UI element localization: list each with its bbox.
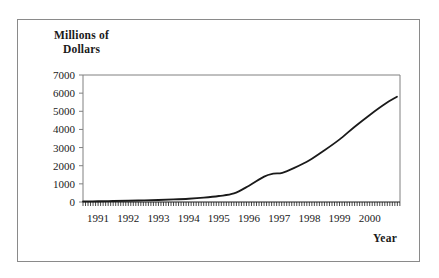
- data-series-line: [83, 97, 397, 202]
- svg-text:1992: 1992: [117, 212, 139, 224]
- svg-text:1996: 1996: [238, 212, 260, 224]
- svg-text:1000: 1000: [53, 178, 76, 190]
- svg-text:2000: 2000: [53, 160, 76, 172]
- y-axis-tick-marks: [79, 75, 83, 202]
- line-chart-plot: 01000200030004000500060007000 1991199219…: [18, 20, 421, 263]
- plot-area-border: [83, 75, 400, 202]
- chart-figure-frame: Millions of Dollars 01000200030004000500…: [17, 19, 420, 262]
- svg-text:1995: 1995: [208, 212, 231, 224]
- x-axis-tick-labels: 1991199219931994199519961997199819992000: [87, 212, 381, 224]
- svg-text:1993: 1993: [147, 212, 170, 224]
- svg-text:0: 0: [70, 196, 76, 208]
- svg-text:1997: 1997: [268, 212, 291, 224]
- svg-text:5000: 5000: [53, 105, 76, 117]
- svg-text:1998: 1998: [298, 212, 321, 224]
- y-axis-tick-labels: 01000200030004000500060007000: [53, 69, 76, 208]
- svg-text:1991: 1991: [87, 212, 109, 224]
- x-axis-title: Year: [373, 232, 397, 244]
- svg-text:7000: 7000: [53, 69, 76, 81]
- svg-text:1999: 1999: [329, 212, 352, 224]
- svg-text:6000: 6000: [53, 87, 76, 99]
- svg-text:1994: 1994: [178, 212, 201, 224]
- svg-text:2000: 2000: [359, 212, 382, 224]
- svg-text:3000: 3000: [53, 142, 76, 154]
- svg-text:4000: 4000: [53, 123, 76, 135]
- x-axis-minor-tick-marks: [83, 202, 400, 206]
